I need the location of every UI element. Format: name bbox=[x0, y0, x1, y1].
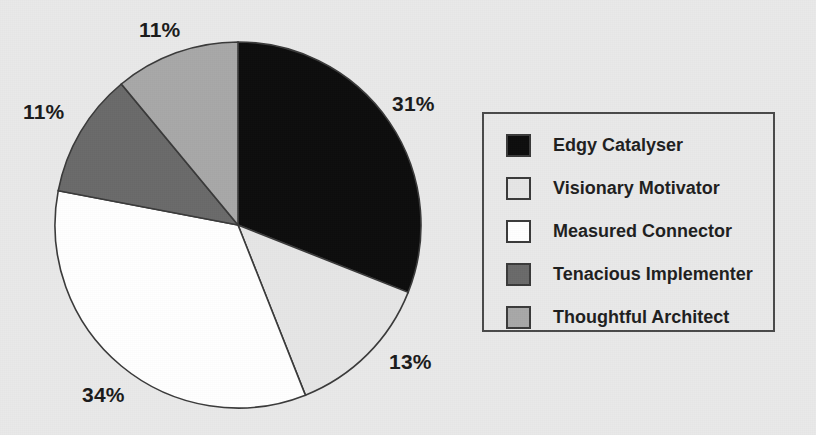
legend-color-swatch bbox=[506, 263, 531, 286]
pie-value-label: 34% bbox=[82, 383, 125, 407]
legend-color-swatch bbox=[506, 177, 531, 200]
legend-item-label: Measured Connector bbox=[553, 221, 732, 242]
chart-legend: Edgy CatalyserVisionary MotivatorMeasure… bbox=[482, 112, 775, 332]
legend-item[interactable]: Edgy Catalyser bbox=[506, 132, 683, 158]
legend-item-label: Visionary Motivator bbox=[553, 178, 720, 199]
legend-color-swatch bbox=[506, 306, 531, 329]
legend-item[interactable]: Measured Connector bbox=[506, 218, 732, 244]
legend-color-swatch bbox=[506, 134, 531, 157]
pie-slice-group bbox=[55, 42, 421, 408]
legend-item-label: Tenacious Implementer bbox=[553, 264, 753, 285]
pie-value-label: 31% bbox=[392, 92, 435, 116]
legend-item[interactable]: Visionary Motivator bbox=[506, 175, 720, 201]
pie-value-label: 13% bbox=[389, 350, 432, 374]
legend-item[interactable]: Thoughtful Architect bbox=[506, 304, 729, 330]
legend-item[interactable]: Tenacious Implementer bbox=[506, 261, 753, 287]
pie-chart-page: 31%13%34%11%11% Edgy CatalyserVisionary … bbox=[0, 0, 816, 435]
legend-item-label: Edgy Catalyser bbox=[553, 135, 683, 156]
pie-value-label: 11% bbox=[139, 18, 180, 42]
pie-value-label: 11% bbox=[23, 100, 64, 124]
legend-color-swatch bbox=[506, 220, 531, 243]
legend-item-label: Thoughtful Architect bbox=[553, 307, 729, 328]
